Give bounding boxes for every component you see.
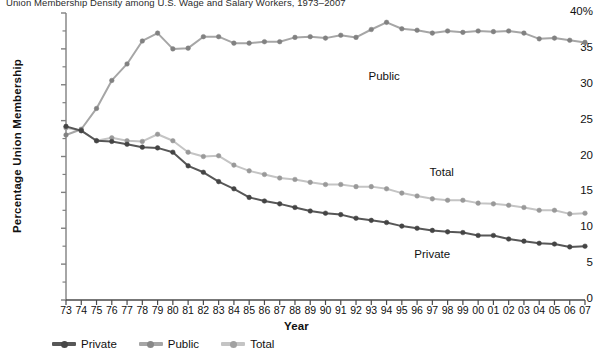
annotation-private: Private	[414, 248, 450, 260]
legend-swatch-icon	[221, 342, 245, 346]
legend-swatch-icon	[139, 342, 163, 346]
annotation-public: Public	[369, 70, 400, 82]
legend-label: Total	[250, 338, 274, 350]
series-total	[64, 126, 588, 217]
legend-label: Public	[168, 338, 199, 350]
chart-legend: PrivatePublicTotal	[52, 338, 274, 350]
legend-swatch-icon	[52, 342, 76, 346]
legend-label: Private	[81, 338, 117, 350]
legend-item-total[interactable]: Total	[221, 338, 274, 350]
series-public	[64, 20, 588, 137]
legend-item-public[interactable]: Public	[139, 338, 199, 350]
annotation-total: Total	[430, 166, 454, 178]
legend-item-private[interactable]: Private	[52, 338, 117, 350]
